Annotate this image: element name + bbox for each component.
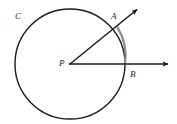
- label-point-a: A: [111, 12, 117, 21]
- label-center-p: P: [59, 59, 65, 68]
- label-circle-c: C: [15, 12, 21, 21]
- label-point-b: B: [130, 70, 136, 79]
- ray-pa: [70, 10, 137, 65]
- geometry-canvas: [0, 0, 177, 124]
- geometry-figure: C A B P: [0, 0, 177, 124]
- center-point-dot: [69, 63, 71, 65]
